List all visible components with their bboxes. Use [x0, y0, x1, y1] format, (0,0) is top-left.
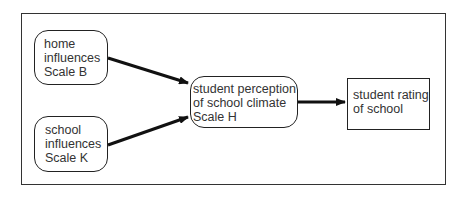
node-label-line: student rating [353, 88, 423, 102]
node-label-line: Scale B [44, 65, 101, 79]
arrow-home-to-perception [108, 58, 188, 83]
node-label-line: Scale H [193, 110, 291, 124]
node-label-line: influences [45, 137, 101, 151]
arrow-school-to-perception [108, 117, 188, 145]
node-home-influences: home influences Scale B [34, 30, 108, 85]
node-label-line: school [45, 123, 101, 137]
node-label-line: of school climate [193, 96, 291, 110]
node-label-line: home [44, 37, 101, 51]
node-student-rating: student rating of school [347, 78, 430, 130]
node-label-line: of school [353, 102, 423, 116]
node-label-line: Scale K [45, 151, 101, 165]
node-school-influences: school influences Scale K [34, 116, 108, 172]
node-label-line: influences [44, 51, 101, 65]
node-label-line: student perception [193, 82, 291, 96]
node-student-perception: student perception of school climate Sca… [190, 76, 298, 128]
